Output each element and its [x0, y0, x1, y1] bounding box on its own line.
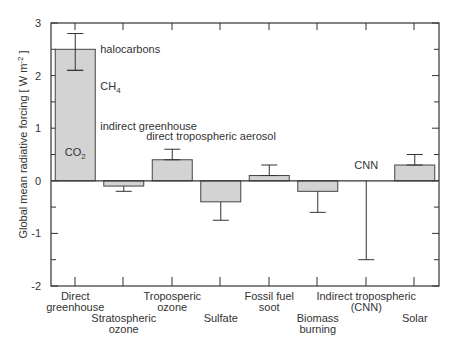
bar-1 — [104, 181, 144, 186]
annotation-label: halocarbons — [100, 43, 160, 55]
x-axis-label: Sulfate — [204, 312, 238, 324]
x-axis-labels: DirectgreenhouseStratosphericozoneTropos… — [46, 290, 428, 335]
annotation-label: CNN — [354, 159, 378, 171]
x-axis-label: burning — [299, 323, 336, 335]
bar-5 — [298, 181, 338, 192]
bar-3 — [201, 181, 241, 202]
plot-frame — [51, 23, 439, 286]
y-tick-label: -1 — [31, 227, 41, 239]
annotation-label: CH4 — [100, 80, 121, 95]
x-axis-label: (CNN) — [351, 301, 382, 313]
x-axis-label: soot — [259, 301, 280, 313]
radiative-forcing-chart: Global mean radiative forcing [ W m-2 ] … — [0, 0, 457, 349]
y-tick-label: 2 — [35, 70, 41, 82]
annotations: halocarbonsCH4indirect greenhouseCO2dire… — [65, 43, 378, 171]
y-axis-label: Global mean radiative forcing [ W m-2 ] — [16, 50, 29, 238]
bar-2 — [152, 160, 192, 181]
error-bars — [67, 34, 423, 260]
y-axis-title: Global mean radiative forcing [ W m-2 ] — [16, 50, 29, 238]
bar-4 — [249, 176, 289, 181]
y-tick-label: 1 — [35, 122, 41, 134]
x-axis-label: Solar — [402, 312, 428, 324]
bar-7 — [395, 165, 435, 181]
annotation-label: direct tropospheric aerosol — [146, 130, 276, 142]
x-axis-label: ozone — [109, 323, 139, 335]
y-tick-label: 3 — [35, 17, 41, 29]
y-tick-label: 0 — [35, 175, 41, 187]
x-axis-label: ozone — [157, 301, 187, 313]
x-axis-ticks — [75, 23, 414, 286]
y-tick-label: -2 — [31, 280, 41, 292]
